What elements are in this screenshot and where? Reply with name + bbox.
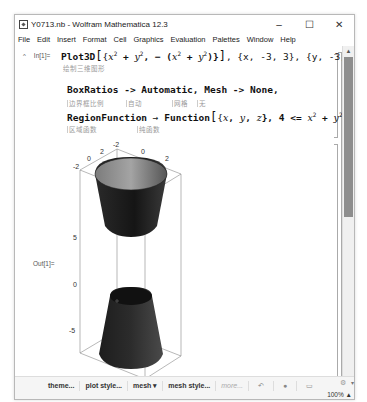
z-tick-5: 5 [73,234,77,241]
chevron-down-icon[interactable]: ▾ [351,379,354,386]
y-tick-neg2: -2 [73,163,79,170]
window-title: Y0713.nb - Wolfram Mathematica 12.3 [31,20,168,29]
hint-function: 纯函数 [137,126,160,133]
menu-cell[interactable]: Cell [114,35,127,44]
gear-icon[interactable]: ● [274,381,297,391]
menu-insert[interactable]: Insert [57,35,76,44]
settings-icon[interactable]: ⚙ [340,379,346,387]
y-tick-0: 0 [87,155,91,162]
mathematica-app-icon [19,20,28,29]
title-bar: Y0713.nb - Wolfram Mathematica 12.3 – ☐ … [15,15,354,33]
more-button[interactable]: more... [216,381,249,391]
hint-boxratios: 边界框比例 [67,100,104,107]
plot-style-button[interactable]: plot style... [80,381,128,391]
suggestions-bar: theme... plot style... mesh ▾ mesh style… [15,376,354,399]
input-code-line-3[interactable]: RegionFunction → Function[{x, y, z}, 4 <… [67,110,342,124]
input-code-line-1[interactable]: Plot3D[{x2 + y2, − (x2 + y2)}], {x, -3, … [61,49,342,63]
menu-window[interactable]: Window [247,35,274,44]
hint-automatic: 自动 [126,100,142,107]
vertical-scrollbar[interactable]: ▲ [342,46,354,377]
input-code-line-2[interactable]: BoxRatios -> Automatic, Mesh -> None, [67,84,279,95]
chat-icon[interactable]: ▭ [297,381,322,391]
menu-evaluation[interactable]: Evaluation [171,35,206,44]
theme-button[interactable]: theme... [43,381,80,391]
input-label: ^In[1]= [23,52,50,59]
menu-format[interactable]: Format [83,35,107,44]
collapse-icon[interactable]: ^ [23,53,26,59]
menu-edit[interactable]: Edit [37,35,50,44]
hint-plot3d: 绘制三维图形 [63,63,105,73]
undo-icon[interactable]: ↶ [249,381,274,391]
menu-help[interactable]: Help [280,35,295,44]
x-tick-0: 0 [141,148,145,155]
mesh-dropdown[interactable]: mesh ▾ [128,381,163,391]
zoom-level[interactable]: 100% ▲ [327,391,352,398]
maximize-button[interactable]: ☐ [294,15,324,33]
scroll-thumb[interactable] [344,57,353,217]
minimize-button[interactable]: – [264,15,294,33]
menu-file[interactable]: File [18,35,30,44]
scroll-up-arrow-icon[interactable]: ▲ [343,46,354,56]
z-tick-0: 0 [73,281,77,288]
menu-bar: File Edit Insert Format Cell Graphics Ev… [15,33,354,46]
z-tick-neg5: -5 [69,327,75,334]
mesh-style-button[interactable]: mesh style... [163,381,216,391]
x-tick-neg2: -2 [113,141,119,148]
hints-line-2: 边界框比例 自动 网格 无 [67,98,206,108]
hint-none: 无 [197,100,206,107]
x-tick-2: 2 [165,155,169,162]
hint-regionfunction: 区域函数 [67,126,97,133]
plot3d-graphic[interactable]: -2 0 2 2 0 -2 5 0 -5 [45,141,195,377]
close-button[interactable]: ✕ [324,15,354,33]
hints-line-3: 区域函数 纯函数 [67,124,160,134]
notebook-content[interactable]: ^In[1]= Plot3D[{x2 + y2, − (x2 + y2)}], … [15,46,342,377]
y-tick-2: 2 [100,148,104,155]
menu-palettes[interactable]: Palettes [213,35,240,44]
menu-graphics[interactable]: Graphics [133,35,163,44]
mathematica-window: Y0713.nb - Wolfram Mathematica 12.3 – ☐ … [14,14,355,400]
hint-mesh: 网格 [172,100,188,107]
